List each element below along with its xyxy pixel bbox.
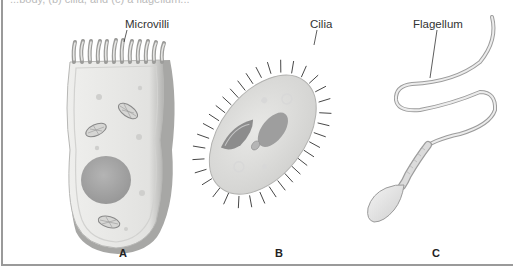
panel-letter-a: A bbox=[119, 247, 127, 259]
microvilli-leader bbox=[124, 30, 127, 42]
nucleus bbox=[81, 156, 131, 204]
cilia-leader bbox=[314, 30, 317, 45]
sperm-head bbox=[368, 185, 404, 222]
panel-b-paramecium bbox=[170, 37, 355, 231]
panel-letter-c: C bbox=[432, 247, 440, 259]
panel-a-cell bbox=[67, 40, 175, 254]
label-flagellum: Flagellum bbox=[413, 18, 463, 30]
panel-c-sperm bbox=[368, 17, 495, 222]
microvilli bbox=[74, 40, 164, 62]
label-microvilli: Microvilli bbox=[125, 18, 169, 30]
label-cilia: Cilia bbox=[310, 18, 332, 30]
flagellum-leader bbox=[430, 30, 437, 78]
panel-letter-b: B bbox=[275, 247, 283, 259]
